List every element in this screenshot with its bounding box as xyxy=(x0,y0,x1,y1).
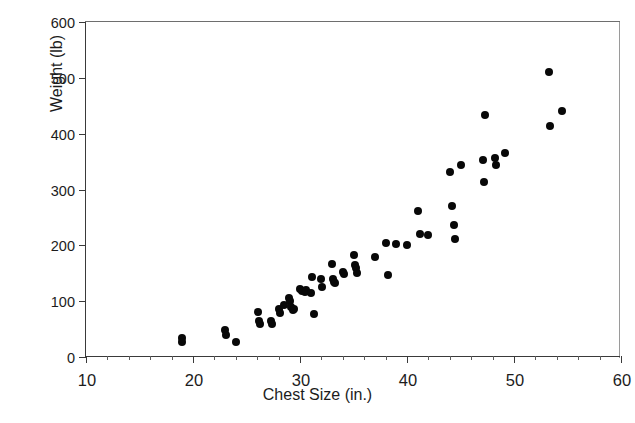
scatter-point xyxy=(276,309,284,317)
y-axis-label: Weight (lb) xyxy=(48,35,66,112)
x-tick-minor xyxy=(150,356,151,360)
x-tick-minor xyxy=(321,356,322,360)
x-tick-minor xyxy=(471,356,472,360)
scatter-point xyxy=(546,122,554,130)
scatter-point xyxy=(371,253,379,261)
scatter-point xyxy=(545,68,553,76)
scatter-point xyxy=(268,320,276,328)
x-tick-minor xyxy=(257,356,258,360)
y-tick: 400 xyxy=(79,134,86,135)
scatter-point xyxy=(424,231,432,239)
x-tick-minor xyxy=(535,356,536,360)
scatter-point xyxy=(382,239,390,247)
scatter-point xyxy=(328,260,336,268)
x-tick: 40 xyxy=(407,356,408,363)
y-tick-label: 300 xyxy=(51,183,75,199)
scatter-point xyxy=(290,305,298,313)
scatter-point xyxy=(178,338,186,346)
scatter-point xyxy=(254,308,262,316)
y-tick-label: 100 xyxy=(51,294,75,310)
scatter-point xyxy=(256,320,264,328)
scatter-point xyxy=(331,279,339,287)
x-tick-minor xyxy=(107,356,108,360)
scatter-point xyxy=(481,111,489,119)
x-tick-minor xyxy=(600,356,601,360)
scatter-point xyxy=(446,168,454,176)
x-axis-label: Chest Size (in.) xyxy=(0,386,635,404)
scatter-point xyxy=(501,149,509,157)
y-tick: 500 xyxy=(79,78,86,79)
x-tick-minor xyxy=(343,356,344,360)
scatter-point xyxy=(457,161,465,169)
plot-area: 0100200300400500600 102030405060 Weight … xyxy=(85,22,620,357)
scatter-point xyxy=(414,207,422,215)
scatter-point xyxy=(308,273,316,281)
x-tick-minor xyxy=(493,356,494,360)
scatter-point xyxy=(310,310,318,318)
x-tick: 20 xyxy=(193,356,194,363)
scatter-point xyxy=(317,275,325,283)
scatter-point xyxy=(232,338,240,346)
clipped-caption-text xyxy=(0,0,635,6)
y-tick-label: 0 xyxy=(67,350,75,366)
scatter-point xyxy=(416,230,424,238)
scatter-point xyxy=(350,251,358,259)
scatter-point xyxy=(492,161,500,169)
scatter-point xyxy=(448,202,456,210)
x-tick-minor xyxy=(428,356,429,360)
x-tick-minor xyxy=(279,356,280,360)
scatter-point xyxy=(318,283,326,291)
scatter-point xyxy=(558,107,566,115)
x-tick-minor xyxy=(129,356,130,360)
x-tick: 30 xyxy=(300,356,301,363)
scatter-point xyxy=(451,235,459,243)
scatter-point xyxy=(392,240,400,248)
scatter-plot-figure: 0100200300400500600 102030405060 Weight … xyxy=(0,0,635,423)
scatter-point xyxy=(384,271,392,279)
y-tick: 300 xyxy=(79,190,86,191)
y-tick-label: 400 xyxy=(51,127,75,143)
x-tick: 10 xyxy=(86,356,87,363)
scatter-point xyxy=(403,241,411,249)
scatter-point xyxy=(479,156,487,164)
y-tick: 0 xyxy=(79,357,86,358)
y-tick: 600 xyxy=(79,22,86,23)
y-tick: 200 xyxy=(79,245,86,246)
x-tick-minor xyxy=(557,356,558,360)
scatter-point xyxy=(307,289,315,297)
x-tick: 60 xyxy=(621,356,622,363)
y-tick-label: 200 xyxy=(51,238,75,254)
scatter-point xyxy=(340,270,348,278)
scatter-point xyxy=(450,221,458,229)
x-tick-minor xyxy=(578,356,579,360)
x-tick-minor xyxy=(214,356,215,360)
y-tick-label: 600 xyxy=(51,15,75,31)
x-tick-minor xyxy=(364,356,365,360)
scatter-point xyxy=(353,269,361,277)
x-tick-minor xyxy=(450,356,451,360)
x-tick-minor xyxy=(236,356,237,360)
scatter-point xyxy=(480,178,488,186)
x-tick-minor xyxy=(386,356,387,360)
x-tick: 50 xyxy=(514,356,515,363)
y-tick: 100 xyxy=(79,301,86,302)
scatter-point xyxy=(222,331,230,339)
x-tick-minor xyxy=(172,356,173,360)
